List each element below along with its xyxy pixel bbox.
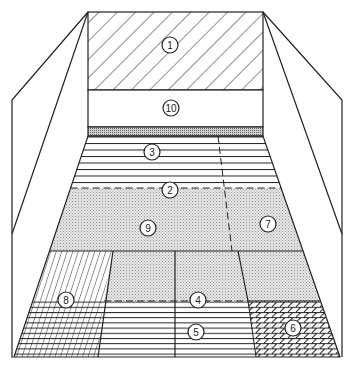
label-9: 9 [140, 220, 156, 236]
svg-text:2: 2 [167, 185, 173, 196]
label-7: 7 [260, 216, 276, 232]
label-1: 1 [162, 37, 178, 53]
label-5: 5 [188, 324, 204, 340]
label-6: 6 [285, 320, 301, 336]
svg-text:4: 4 [195, 295, 201, 306]
svg-text:8: 8 [63, 295, 69, 306]
label-3: 3 [144, 144, 160, 160]
zone-5 [98, 301, 256, 357]
label-8: 8 [58, 292, 74, 308]
zone-3 [71, 136, 281, 188]
svg-text:1: 1 [167, 40, 173, 51]
svg-text:6: 6 [290, 323, 296, 334]
svg-text:3: 3 [149, 147, 155, 158]
label-10: 10 [163, 100, 179, 116]
svg-text:10: 10 [165, 103, 177, 114]
zone-8-upper [33, 251, 113, 301]
label-4: 4 [190, 292, 206, 308]
back-shade [104, 251, 320, 301]
svg-text:7: 7 [265, 219, 271, 230]
svg-text:9: 9 [145, 223, 151, 234]
tin-strip [88, 127, 263, 136]
label-2: 2 [162, 182, 178, 198]
svg-text:5: 5 [193, 327, 199, 338]
court-diagram: 1 10 3 2 9 7 8 4 5 6 [0, 0, 351, 368]
zone-8-lower [14, 301, 103, 357]
